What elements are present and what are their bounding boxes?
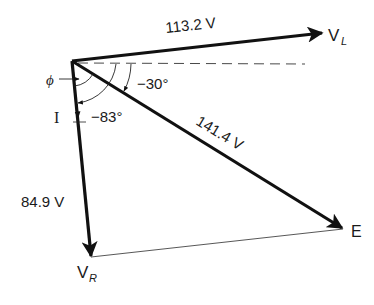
phasor-vl-arrow <box>72 33 322 61</box>
svg-text:R: R <box>89 272 97 284</box>
phasor-vr-arrow <box>72 61 91 256</box>
angle-30-label: −30° <box>137 75 168 92</box>
phi-label: ϕ <box>46 72 54 88</box>
phasor-diagram: 113.2 V V L 141.4 V E 84.9 V V R I ϕ −30… <box>0 0 374 305</box>
angle-83-label: −83° <box>91 108 122 125</box>
phasor-e-arrow <box>72 61 342 228</box>
e-name-label: E <box>351 223 362 240</box>
vr-magnitude-label: 84.9 V <box>21 193 64 210</box>
svg-text:V: V <box>328 26 340 45</box>
e-magnitude-label: 141.4 V <box>193 112 246 153</box>
phi-angle-arc <box>75 74 94 86</box>
svg-text:L: L <box>341 35 347 47</box>
angle-30-arc <box>124 64 131 91</box>
svg-text:V: V <box>77 263 89 282</box>
closing-line-vr-to-e <box>91 229 343 257</box>
vr-name-label: V R <box>77 263 97 284</box>
reference-axis-dashed <box>78 63 305 64</box>
vl-magnitude-label: 113.2 V <box>165 14 217 36</box>
vl-name-label: V L <box>328 26 347 47</box>
current-i-label: I <box>54 109 59 126</box>
